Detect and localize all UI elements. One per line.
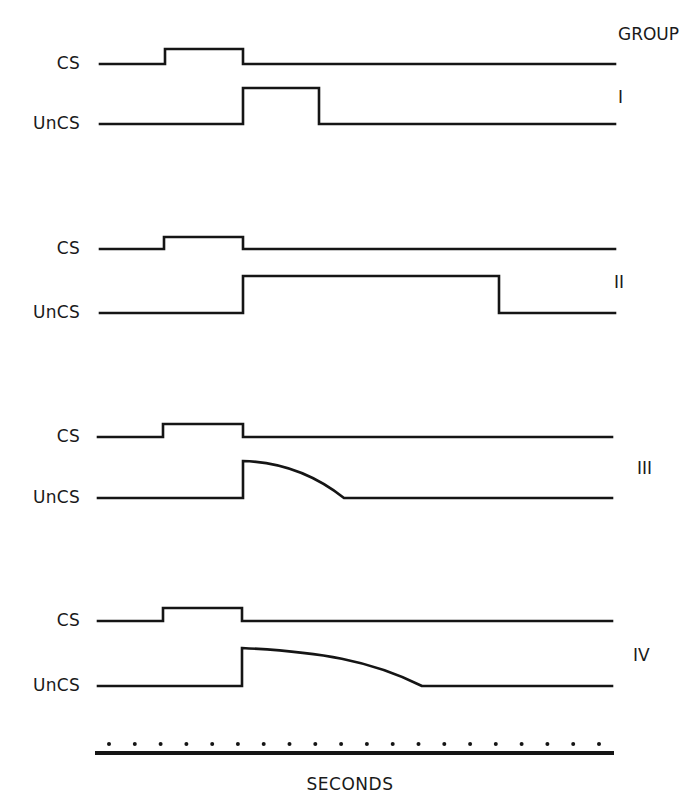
time-tick-dot — [210, 742, 214, 746]
group-4-cs-trace — [98, 608, 612, 621]
time-tick-dot — [468, 742, 472, 746]
time-tick-dot — [597, 742, 601, 746]
time-tick-dot — [133, 742, 137, 746]
group-2-ucs-trace — [100, 276, 615, 313]
group-2-cs-trace — [100, 237, 615, 249]
group-3-label: III — [637, 458, 652, 478]
time-tick-dot — [107, 742, 111, 746]
group-header: GROUP — [618, 24, 679, 44]
group-2-label: II — [614, 272, 624, 292]
time-tick-dot — [184, 742, 188, 746]
time-tick-dot — [365, 742, 369, 746]
time-tick-dot — [288, 742, 292, 746]
time-tick-dot — [571, 742, 575, 746]
time-tick-dot — [494, 742, 498, 746]
group-2-ucs-label: UnCS — [0, 302, 80, 322]
group-2-cs-label: CS — [0, 238, 80, 258]
group-1-ucs-trace — [100, 88, 615, 124]
group-1-cs-trace — [100, 49, 615, 64]
time-tick-dot — [417, 742, 421, 746]
timing-diagram-canvas — [0, 0, 700, 802]
group-1-cs-label: CS — [0, 53, 80, 73]
time-tick-dot — [545, 742, 549, 746]
group-1-ucs-label: UnCS — [0, 113, 80, 133]
time-tick-dot — [159, 742, 163, 746]
group-3-ucs-trace — [98, 461, 612, 498]
group-4-label: IV — [633, 645, 650, 665]
group-1-label: I — [618, 87, 623, 107]
time-tick-dot — [313, 742, 317, 746]
group-3-cs-trace — [98, 424, 612, 437]
time-axis-ticks — [107, 742, 601, 746]
time-tick-dot — [262, 742, 266, 746]
time-tick-dot — [442, 742, 446, 746]
group-4-cs-label: CS — [0, 610, 80, 630]
group-4-ucs-trace — [98, 648, 612, 686]
x-axis-label: SECONDS — [0, 774, 700, 794]
time-tick-dot — [520, 742, 524, 746]
group-3-ucs-label: UnCS — [0, 487, 80, 507]
time-tick-dot — [339, 742, 343, 746]
group-3-cs-label: CS — [0, 426, 80, 446]
time-tick-dot — [391, 742, 395, 746]
timing-diagram: GROUP CS UnCS I CS UnCS II CS UnCS III C… — [0, 0, 700, 802]
group-4-ucs-label: UnCS — [0, 675, 80, 695]
time-tick-dot — [236, 742, 240, 746]
